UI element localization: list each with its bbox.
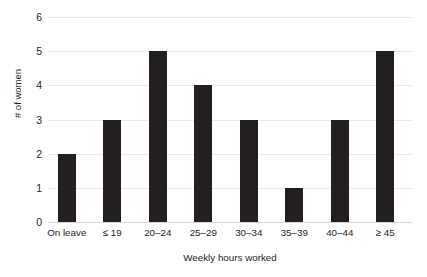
- y-axis-title: # of women: [12, 44, 23, 144]
- bar: [285, 188, 303, 222]
- bar: [58, 154, 76, 222]
- y-tick-label: 2: [14, 148, 42, 159]
- y-tick-label: 0: [14, 217, 42, 228]
- plot-area: [48, 17, 412, 222]
- gridline: [48, 51, 412, 52]
- bar: [103, 120, 121, 223]
- bar: [149, 51, 167, 222]
- x-axis-title: Weekly hours worked: [48, 252, 412, 263]
- x-tick-label: ≥ 45: [350, 227, 420, 239]
- gridline: [48, 85, 412, 86]
- bar: [194, 85, 212, 222]
- bar: [240, 120, 258, 223]
- gridline: [48, 17, 412, 18]
- bar: [331, 120, 349, 223]
- y-tick-label: 1: [14, 183, 42, 194]
- bar: [376, 51, 394, 222]
- axis-baseline: [48, 222, 412, 223]
- y-tick-label: 6: [14, 12, 42, 23]
- bar-chart-figure: 0123456 # of women On leave≤ 1920–2425–2…: [0, 0, 427, 277]
- x-axis-tick-labels: On leave≤ 1920–2425–2930–3435–3940–44≥ 4…: [48, 227, 412, 243]
